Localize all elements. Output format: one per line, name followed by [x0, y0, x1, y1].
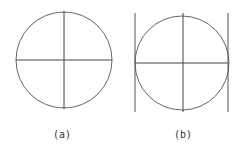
label-a: (a)	[53, 129, 71, 140]
figure-a	[16, 11, 112, 109]
figure-b	[135, 13, 229, 112]
label-b: (b)	[174, 129, 192, 140]
diagram-canvas	[0, 0, 243, 156]
